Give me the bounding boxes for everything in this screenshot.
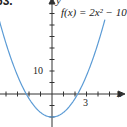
y-tick-label-10: 10 <box>33 65 43 76</box>
tick-marks <box>6 14 110 118</box>
y-axis-arrow-icon <box>49 0 55 4</box>
problem-number: 63. <box>0 0 13 8</box>
x-axis-label: x <box>117 87 122 99</box>
parabola-plot <box>0 0 127 127</box>
y-axis-label: y <box>56 0 61 6</box>
axes <box>0 0 125 127</box>
figure: 63. f(x) = 2x² − 10 y x 10 3 <box>0 0 127 127</box>
x-tick-label-3: 3 <box>83 97 88 108</box>
function-label: f(x) = 2x² − 10 <box>61 6 127 18</box>
